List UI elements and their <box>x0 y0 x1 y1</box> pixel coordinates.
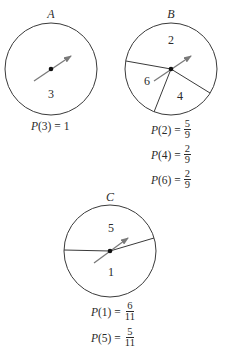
spinner-a: A 3 <box>5 7 97 115</box>
spinner-b: B 2 6 4 <box>125 7 217 115</box>
denominator: 11 <box>124 312 136 322</box>
spinner-a-pivot <box>49 67 54 72</box>
denominator: 9 <box>184 180 191 190</box>
spinner-b-sector-label: 6 <box>144 74 150 88</box>
spinner-a-sector-label: 3 <box>48 87 54 101</box>
prob-symbol: P <box>151 174 158 186</box>
spinner-b-title: B <box>167 7 175 21</box>
prob-lhs: (2) = <box>158 124 181 136</box>
prob-lhs: (1) = <box>98 306 121 318</box>
prob-symbol: P <box>31 120 38 132</box>
prob-symbol: P <box>151 149 158 161</box>
spinner-b-pivot <box>169 67 174 72</box>
denominator: 9 <box>184 130 191 140</box>
prob-lhs: (3) = <box>38 120 61 132</box>
prob-symbol: P <box>151 124 158 136</box>
spinner-c-divider <box>110 238 154 251</box>
prob-fraction: 29 <box>184 169 191 190</box>
prob-fraction: 511 <box>124 327 136 348</box>
spinner-c: C 5 1 <box>64 190 156 297</box>
prob-lhs: (5) = <box>98 332 121 344</box>
spinner-c-pivot <box>108 249 113 254</box>
spinner-a-title: A <box>46 7 55 21</box>
prob-c-5: P(5) = 511 <box>91 327 136 348</box>
prob-fraction: 611 <box>124 301 136 322</box>
prob-symbol: P <box>91 306 98 318</box>
prob-value: 1 <box>64 120 70 132</box>
prob-symbol: P <box>91 332 98 344</box>
spinner-c-sector-label: 1 <box>108 265 114 279</box>
spinner-b-sector-label: 4 <box>177 89 183 103</box>
prob-lhs: (6) = <box>158 174 181 186</box>
prob-c-1: P(1) = 611 <box>91 301 136 322</box>
prob-fraction: 29 <box>184 144 191 165</box>
denominator: 9 <box>184 155 191 165</box>
prob-b-6: P(6) = 29 <box>151 169 191 190</box>
prob-fraction: 59 <box>184 119 191 140</box>
spinner-b-divider <box>126 61 171 69</box>
spinner-c-divider <box>64 250 110 251</box>
spinner-c-sector-label: 5 <box>108 221 114 235</box>
prob-b-2: P(2) = 59 <box>151 119 191 140</box>
spinner-c-title: C <box>106 190 115 204</box>
prob-lhs: (4) = <box>158 149 181 161</box>
spinner-b-sector-label: 2 <box>168 33 174 47</box>
prob-b-4: P(4) = 29 <box>151 144 191 165</box>
denominator: 11 <box>124 338 136 348</box>
prob-a-3: P(3) = 1 <box>31 120 70 132</box>
